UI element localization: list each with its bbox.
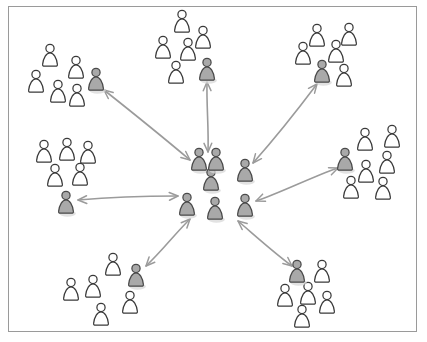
double-headed-arrow-icon bbox=[78, 192, 178, 203]
shaded-person-icon bbox=[200, 58, 217, 83]
person-icon bbox=[156, 36, 171, 58]
person-icon bbox=[315, 260, 330, 282]
shaded-person-icon bbox=[59, 191, 76, 216]
diagram-stage: Hub-and-spoke social network diagram A c… bbox=[0, 0, 427, 342]
person-icon bbox=[196, 26, 211, 48]
person-icon bbox=[43, 44, 58, 66]
connection-core-bottom-left[interactable] bbox=[146, 219, 190, 266]
person-icon bbox=[295, 305, 310, 327]
top-left-cluster[interactable] bbox=[29, 44, 106, 106]
shaded-person-icon bbox=[180, 193, 197, 218]
person-icon bbox=[48, 164, 63, 186]
person-icon bbox=[337, 64, 352, 86]
person-icon bbox=[376, 177, 391, 199]
connection-core-top-left[interactable] bbox=[104, 90, 190, 160]
shaded-person-icon bbox=[208, 197, 225, 222]
shaded-person-icon bbox=[192, 148, 209, 173]
person-icon bbox=[37, 140, 52, 162]
person-icon bbox=[70, 84, 85, 106]
bottom-left-cluster[interactable] bbox=[64, 253, 146, 325]
shaded-person-icon bbox=[209, 148, 226, 173]
person-icon bbox=[86, 275, 101, 297]
left-cluster[interactable] bbox=[37, 138, 96, 216]
person-icon bbox=[344, 176, 359, 198]
person-icon bbox=[29, 70, 44, 92]
person-icon bbox=[301, 282, 316, 304]
person-icon bbox=[169, 61, 184, 83]
person-icon bbox=[94, 303, 109, 325]
person-icon bbox=[342, 23, 357, 45]
shaded-person-icon bbox=[238, 194, 255, 219]
connection-core-top-right[interactable] bbox=[253, 84, 317, 163]
core-cluster[interactable] bbox=[180, 148, 255, 222]
shaded-person-icon bbox=[315, 60, 332, 85]
right-cluster[interactable] bbox=[338, 125, 400, 199]
people-layer bbox=[29, 10, 400, 327]
shaded-person-icon bbox=[338, 148, 355, 173]
bottom-right-cluster[interactable] bbox=[278, 260, 335, 327]
top-middle-cluster[interactable] bbox=[156, 10, 217, 83]
person-icon bbox=[320, 291, 335, 313]
connection-core-right[interactable] bbox=[256, 168, 338, 202]
person-icon bbox=[123, 291, 138, 313]
network-diagram-canvas bbox=[0, 0, 427, 342]
person-icon bbox=[69, 56, 84, 78]
shaded-person-icon bbox=[290, 260, 307, 285]
person-icon bbox=[60, 138, 75, 160]
connection-core-left[interactable] bbox=[78, 192, 178, 203]
person-icon bbox=[106, 253, 121, 275]
person-icon bbox=[296, 42, 311, 64]
person-icon bbox=[81, 141, 96, 163]
person-icon bbox=[175, 10, 190, 32]
person-icon bbox=[51, 80, 66, 102]
person-icon bbox=[181, 38, 196, 60]
person-icon bbox=[64, 278, 79, 300]
person-icon bbox=[73, 163, 88, 185]
top-right-cluster[interactable] bbox=[296, 23, 357, 86]
connection-core-top-middle[interactable] bbox=[203, 82, 211, 152]
person-icon bbox=[278, 284, 293, 306]
person-icon bbox=[380, 151, 395, 173]
person-icon bbox=[310, 24, 325, 46]
shaded-person-icon bbox=[89, 68, 106, 93]
shaded-person-icon bbox=[129, 264, 146, 289]
person-icon bbox=[358, 128, 373, 150]
connection-core-bottom-right[interactable] bbox=[238, 221, 292, 266]
person-icon bbox=[359, 160, 374, 182]
person-icon bbox=[385, 125, 400, 147]
